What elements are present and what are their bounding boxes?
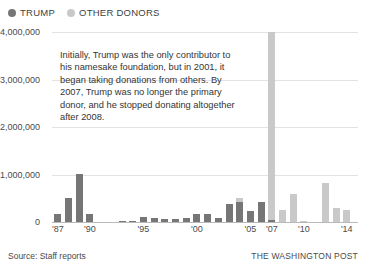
bar-segment-other-donors: [333, 208, 340, 222]
bar-segment-trump: [54, 214, 61, 222]
bar-group: [172, 219, 179, 222]
bar-group: [322, 183, 329, 222]
bar-segment-trump: [140, 217, 147, 222]
legend-entry-other: OTHER DONORS: [67, 8, 160, 18]
y-tick-label: 3,000,000: [0, 75, 40, 85]
bar-group: [119, 221, 126, 222]
bar-segment-other-donors: [268, 32, 275, 220]
bar-group: [215, 218, 222, 222]
legend-entry-trump: TRUMP: [8, 8, 55, 18]
bar-segment-trump: [193, 214, 200, 222]
bar-group: [86, 214, 93, 222]
bar-group: [268, 32, 275, 222]
x-tick-label: '00: [191, 224, 203, 234]
bar-segment-trump: [129, 221, 136, 222]
y-tick-label: 0: [0, 217, 40, 227]
bar-group: [54, 214, 61, 222]
bar-segment-other-donors: [279, 210, 286, 222]
bar-segment-trump: [215, 218, 222, 222]
bar-segment-trump: [236, 202, 243, 222]
bar-group: [151, 218, 158, 223]
y-tick-label: 4,000,000: [0, 27, 40, 37]
bar-group: [161, 219, 168, 222]
publisher-credit: THE WASHINGTON POST: [251, 251, 358, 261]
x-tick-label: '07: [266, 224, 278, 234]
legend-swatch-other-icon: [67, 9, 75, 17]
bar-group: [279, 210, 286, 222]
donation-bar-chart: TRUMPOTHER DONORS 01,000,0002,000,0003,0…: [0, 0, 366, 269]
legend-label-trump: TRUMP: [20, 8, 55, 18]
bar-segment-other-donors: [322, 183, 329, 222]
y-tick-label: 1,000,000: [0, 170, 40, 180]
bar-segment-trump: [76, 174, 83, 222]
bar-group: [140, 217, 147, 222]
bar-segment-trump: [204, 214, 211, 222]
y-tick-label: 2,000,000: [0, 122, 40, 132]
bar-segment-trump: [268, 220, 275, 222]
bar-segment-trump: [183, 218, 190, 223]
bar-group: [258, 202, 265, 222]
bar-group: [65, 198, 72, 222]
bar-segment-trump: [161, 219, 168, 222]
bar-group: [183, 218, 190, 223]
bar-segment-other-donors: [290, 194, 297, 223]
x-tick-label: '14: [341, 224, 353, 234]
x-tick-label: '95: [138, 224, 150, 234]
bar-group: [333, 208, 340, 222]
bar-group: [343, 210, 350, 222]
bar-segment-other-donors: [343, 210, 350, 222]
legend-swatch-trump-icon: [8, 9, 16, 17]
chart-legend: TRUMPOTHER DONORS: [8, 6, 160, 20]
bar-segment-trump: [86, 214, 93, 222]
bar-group: [300, 221, 307, 222]
x-tick-label: '90: [84, 224, 96, 234]
bar-group: [290, 194, 297, 223]
bar-group: [129, 221, 136, 222]
bar-group: [204, 214, 211, 222]
source-note: Source: Staff reports: [8, 251, 86, 261]
bar-segment-trump: [258, 202, 265, 222]
bar-group: [247, 211, 254, 222]
bar-group: [236, 198, 243, 222]
bar-segment-trump: [119, 221, 126, 222]
bar-segment-trump: [151, 218, 158, 223]
x-axis: '87'90'95'00'05'07'10'14: [52, 224, 358, 238]
bar-group: [193, 214, 200, 222]
legend-label-other: OTHER DONORS: [79, 8, 160, 18]
bar-group: [226, 204, 233, 222]
chart-annotation: Initially, Trump was the only contributo…: [60, 49, 236, 123]
bar-segment-trump: [172, 219, 179, 222]
x-tick-label: '87: [52, 224, 64, 234]
x-tick-label: '05: [245, 224, 257, 234]
bar-segment-trump: [226, 204, 233, 222]
bar-segment-trump: [65, 198, 72, 222]
bar-segment-trump: [247, 211, 254, 222]
x-tick-label: '10: [298, 224, 310, 234]
gridline-0: [52, 222, 358, 223]
bar-group: [76, 174, 83, 222]
bar-segment-other-donors: [300, 221, 307, 222]
